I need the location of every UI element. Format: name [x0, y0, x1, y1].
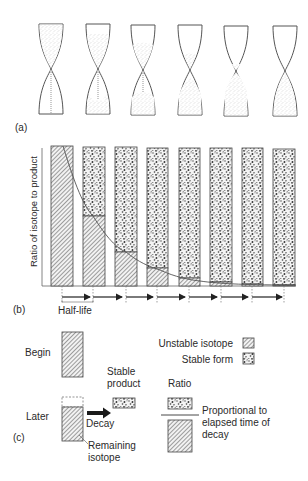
hourglass-1 — [39, 24, 63, 114]
hourglass-2 — [86, 24, 110, 114]
hourglass-6 — [273, 26, 297, 116]
bar-6 — [210, 148, 232, 286]
half-life-ticks — [62, 286, 284, 303]
panel-b: Ratio of isotope to product — [13, 146, 296, 316]
legend-unstable-label: Unstable isotope — [159, 338, 234, 349]
hourglass-5 — [224, 26, 248, 116]
bar-4 — [147, 148, 168, 286]
half-life-bracket — [62, 300, 93, 302]
hourglass-3 — [131, 25, 155, 115]
bar-2 — [83, 147, 105, 286]
y-axis-label: Ratio of isotope to product — [28, 156, 39, 267]
stable-product-box — [113, 398, 135, 408]
ratio-denominator-box — [168, 420, 192, 452]
later-label: Later — [26, 411, 49, 422]
ratio-label: Ratio — [168, 378, 192, 389]
decay-label: Decay — [86, 418, 114, 429]
decay-arrow-icon — [87, 408, 111, 419]
bar-8 — [273, 149, 295, 286]
proportional-line3: decay — [202, 429, 229, 440]
begin-isotope-box — [62, 332, 83, 377]
decayed-portion-box — [62, 397, 83, 407]
ratio-numerator-box — [168, 398, 192, 409]
bar-7 — [242, 148, 263, 286]
panel-c: Begin Later (c) Decay Remaining isotope … — [13, 332, 270, 463]
proportional-line1: Proportional to — [202, 405, 267, 416]
stable-product-line1: Stable — [107, 366, 136, 377]
bar-3 — [115, 147, 137, 286]
panel-b-label: (b) — [13, 304, 25, 315]
legend: Unstable isotope Stable form — [159, 338, 255, 365]
hourglass-4 — [178, 25, 202, 115]
remaining-label-line2: isotope — [88, 452, 121, 463]
begin-label: Begin — [25, 347, 51, 358]
proportional-line2: elapsed time of — [202, 417, 270, 428]
remaining-label-line1: Remaining — [88, 440, 136, 451]
legend-stable-swatch — [243, 353, 254, 364]
bar-5 — [179, 148, 200, 286]
stable-product-line2: product — [107, 378, 141, 389]
radioactive-decay-diagram: (a) Ratio of isotope to product — [0, 0, 308, 481]
panel-a: (a) — [15, 24, 297, 133]
panel-c-label: (c) — [13, 432, 25, 443]
legend-unstable-swatch — [243, 338, 254, 348]
legend-stable-label: Stable form — [182, 354, 233, 365]
panel-a-label: (a) — [15, 122, 27, 133]
half-life-label: Half-life — [58, 305, 92, 316]
